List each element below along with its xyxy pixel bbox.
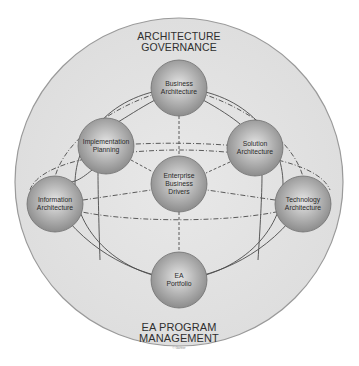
outer-top-label: ARCHITECTURE GOVERNANCE (129, 31, 229, 53)
label-line: Architecture (25, 204, 85, 212)
label-line: Business (149, 80, 209, 88)
label-line: Architecture (273, 204, 333, 212)
label-line: Architecture (149, 88, 209, 96)
copyright-text: © Gartner (159, 346, 199, 350)
label-information-architecture: Information Architecture (25, 196, 85, 212)
label-enterprise-business-drivers: Enterprise Business Drivers (149, 172, 209, 196)
label-line: EA (149, 272, 209, 280)
label-solution-architecture: Solution Architecture (225, 140, 285, 156)
label-ea-portfolio: EA Portfolio (149, 272, 209, 288)
label-implementation-planning: Implementation Planning (74, 138, 138, 154)
outer-bottom-label: EA PROGRAM MANAGEMENT (129, 322, 229, 344)
label-line: Business (149, 180, 209, 188)
label-line: Implementation (74, 138, 138, 146)
label-line: Planning (74, 146, 138, 154)
outer-bottom-label-line-2: MANAGEMENT (129, 333, 229, 344)
outer-top-label-line-2: GOVERNANCE (129, 42, 229, 53)
label-line: Architecture (225, 148, 285, 156)
label-line: Solution (225, 140, 285, 148)
label-line: Portfolio (149, 280, 209, 288)
label-line: Drivers (149, 188, 209, 196)
label-technology-architecture: Technology Architecture (273, 196, 333, 212)
label-line: Information (25, 196, 85, 204)
label-line: Enterprise (149, 172, 209, 180)
label-line: Technology (273, 196, 333, 204)
label-business-architecture: Business Architecture (149, 80, 209, 96)
